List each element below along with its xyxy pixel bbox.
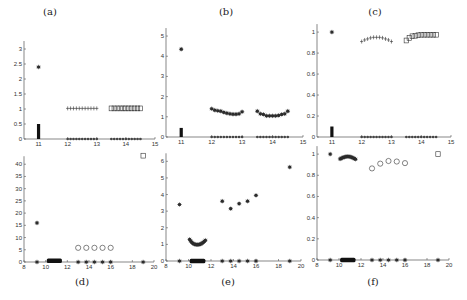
series-arc-cluster: [187, 237, 207, 247]
x-tick-label: 10: [42, 264, 49, 270]
panel-c: 111213141500.20.40.60.81: [307, 24, 455, 145]
series-stars-14: [255, 109, 290, 118]
y-tick-label: 4: [161, 53, 165, 59]
x-tick-label: 15: [448, 139, 455, 145]
series-plus-12-13: [66, 106, 98, 110]
x-tick-label: 13: [93, 141, 100, 147]
x-tick-label: 15: [300, 139, 307, 145]
y-tick-label: 35: [15, 173, 22, 179]
panel-f: 810121416182000.20.40.60.81: [307, 146, 453, 268]
series-plus-12-13: [360, 35, 393, 43]
y-tick-label: 6: [161, 158, 165, 164]
series-star-outlier: [36, 65, 41, 70]
panel-title-c: (c): [355, 6, 395, 17]
y-tick-label: 30: [15, 186, 22, 192]
x-tick-label: 11: [178, 139, 185, 145]
series-hbar-cluster: [47, 259, 62, 263]
x-tick-label: 16: [107, 264, 114, 270]
x-tick-label: 12: [208, 263, 215, 269]
series-zeros-14: [110, 138, 142, 141]
y-tick-label: 0: [19, 136, 23, 142]
y-tick-label: 10: [15, 235, 22, 241]
y-tick-label: 5: [161, 33, 165, 39]
x-tick-label: 11: [35, 141, 42, 147]
panel-title-f: (f): [353, 276, 393, 287]
x-tick-label: 12: [208, 139, 215, 145]
x-tick-label: 13: [239, 139, 246, 145]
series-star-outlier: [179, 47, 184, 52]
y-tick-label: 1: [312, 151, 316, 157]
figure-canvas: 111213141500.511.522.5311121314150123451…: [0, 0, 467, 300]
x-tick-label: 20: [151, 264, 158, 270]
x-tick-label: 8: [315, 262, 319, 268]
x-tick-label: 12: [64, 141, 71, 147]
y-tick-label: 1: [312, 29, 316, 35]
y-tick-label: 3: [161, 73, 165, 79]
panel-title-d: (d): [62, 276, 102, 287]
x-tick-label: 13: [388, 139, 395, 145]
x-tick-label: 15: [152, 141, 159, 147]
series-zeros-14: [405, 136, 437, 139]
y-tick-label: 40: [15, 161, 22, 167]
y-tick-label: 5: [161, 175, 165, 181]
y-tick-label: 0.4: [307, 92, 316, 98]
y-tick-label: 2.5: [14, 61, 23, 67]
y-tick-label: 4: [161, 192, 165, 198]
y-tick-label: 0.2: [307, 236, 316, 242]
x-tick-label: 16: [402, 262, 409, 268]
y-tick-label: 0: [161, 134, 165, 140]
y-tick-label: 2: [161, 94, 165, 100]
y-tick-label: 1: [161, 241, 165, 247]
panel-a: 111213141500.511.522.53: [14, 41, 159, 147]
series-circles: [369, 158, 407, 171]
y-tick-label: 25: [15, 198, 22, 204]
panel-title-a: (a): [30, 6, 70, 17]
x-tick-label: 8: [164, 263, 168, 269]
x-tick-label: 10: [336, 262, 343, 268]
y-tick-label: 1: [161, 114, 165, 120]
panel-b: 1112131415012345: [161, 28, 307, 145]
y-tick-label: 1.5: [14, 91, 23, 97]
y-tick-label: 5: [19, 247, 23, 253]
x-tick-label: 10: [185, 263, 192, 269]
series-square-outlier: [436, 152, 440, 157]
series-bar-cluster-11: [37, 124, 40, 139]
series-circles: [76, 245, 114, 250]
x-tick-label: 14: [123, 141, 130, 147]
x-tick-label: 14: [269, 139, 276, 145]
panel-d: 81012141618200510152025303540: [15, 153, 158, 270]
series-bar-cluster-11: [330, 127, 333, 137]
x-tick-label: 12: [358, 262, 365, 268]
y-tick-label: 0.8: [307, 50, 316, 56]
series-star-outlier: [177, 202, 182, 207]
y-tick-label: 3: [19, 46, 23, 52]
panel-e: 81012141618200123456: [161, 153, 305, 269]
series-hbar-cluster: [340, 258, 355, 262]
x-tick-label: 8: [22, 264, 26, 270]
x-tick-label: 16: [253, 263, 260, 269]
y-tick-label: 0.6: [307, 193, 316, 199]
series-squares-14: [404, 32, 438, 43]
series-square-outlier: [141, 153, 145, 158]
panel-title-b: (b): [206, 6, 246, 17]
y-tick-label: 3: [161, 208, 165, 214]
x-tick-label: 20: [298, 263, 305, 269]
series-zeros-12-13: [360, 136, 392, 139]
y-tick-label: 2: [161, 225, 165, 231]
series-zeros-12-13: [210, 136, 243, 139]
x-tick-label: 12: [64, 264, 71, 270]
x-tick-label: 18: [424, 262, 431, 268]
y-tick-label: 2: [19, 76, 23, 82]
series-arc-cluster: [338, 154, 358, 161]
x-tick-label: 11: [329, 139, 336, 145]
x-tick-label: 18: [275, 263, 282, 269]
y-tick-label: 0.2: [307, 113, 316, 119]
y-tick-label: 0.5: [14, 121, 23, 127]
y-tick-label: 1: [19, 106, 23, 112]
x-tick-label: 14: [380, 262, 387, 268]
y-tick-label: 15: [15, 222, 22, 228]
x-tick-label: 14: [86, 264, 93, 270]
series-star-outlier: [35, 221, 40, 226]
panel-title-e: (e): [208, 276, 248, 287]
x-tick-label: 14: [418, 139, 425, 145]
